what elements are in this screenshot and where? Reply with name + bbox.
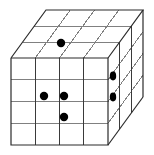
cube-grid-diagram [0,0,154,155]
dot-front-face-1 [40,92,48,100]
dot-right-face-2 [110,93,116,102]
dot-top-face-1 [57,39,65,47]
dot-front-face-2 [60,92,68,100]
dot-front-face-3 [60,113,68,121]
dot-right-face-1 [110,72,116,81]
figure-root [0,0,154,155]
